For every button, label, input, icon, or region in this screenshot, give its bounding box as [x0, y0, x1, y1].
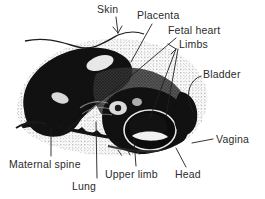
leader-vagina: [192, 139, 213, 143]
skin-contour-right: [118, 32, 144, 35]
label-maternal-spine: Maternal spine: [9, 159, 81, 170]
heart-core: [115, 105, 121, 111]
chamber-echo: [132, 98, 142, 106]
label-limbs: Limbs: [179, 39, 208, 50]
label-placenta: Placenta: [137, 10, 179, 21]
leader-head: [176, 148, 186, 167]
label-lung: Lung: [72, 181, 96, 192]
label-fetal-heart: Fetal heart: [168, 25, 220, 36]
label-upper-limb: Upper limb: [105, 169, 158, 180]
label-skin: Skin: [97, 4, 118, 15]
anatomical-figure: Skin Placenta Fetal heart Limbs Bladder …: [0, 0, 265, 199]
label-vagina: Vagina: [216, 134, 249, 145]
specimen-illustration: [16, 32, 207, 158]
label-bladder: Bladder: [203, 69, 241, 80]
label-head: Head: [175, 169, 201, 180]
